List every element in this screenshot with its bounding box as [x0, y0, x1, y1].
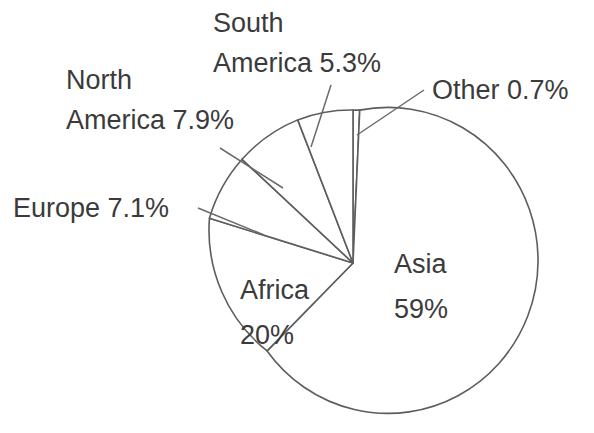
label-asia-line1: Asia: [394, 249, 448, 279]
pie-chart-svg: South America 5.3% North America 7.9% Eu…: [0, 0, 594, 433]
label-north-america-line2: America 7.9%: [66, 105, 234, 135]
pie-chart-figure: South America 5.3% North America 7.9% Eu…: [0, 0, 594, 433]
label-europe: Europe 7.1%: [13, 193, 169, 223]
label-asia-line2: 59%: [394, 294, 448, 324]
label-africa-line1: Africa: [240, 275, 310, 305]
label-africa-line2: 20%: [240, 320, 294, 350]
label-south-america-line1: South: [213, 8, 284, 38]
label-south-america-line2: America 5.3%: [213, 48, 381, 78]
label-north-america-line1: North: [66, 65, 132, 95]
label-other: Other 0.7%: [432, 75, 569, 105]
